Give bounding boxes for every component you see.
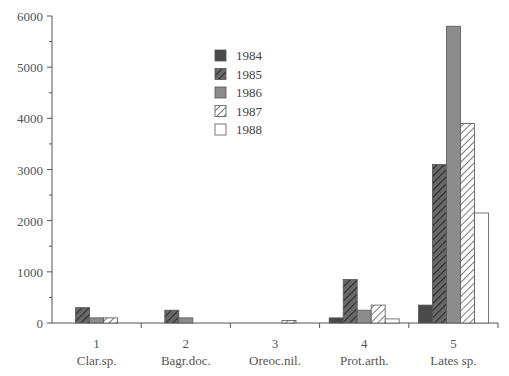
x-category-label: Bagr.doc. [161,353,211,368]
y-tick-label: 2000 [17,214,43,229]
y-tick-label: 0 [37,316,44,331]
bar-chart: 0100020003000400050006000 1Clar.sp.2Bagr… [0,0,509,376]
legend-swatch-1985 [215,69,226,80]
y-tick-label: 6000 [17,9,43,24]
legend-swatch-1986 [215,87,226,98]
bar-clarsp-1985 [76,308,90,323]
legend: 19841985198619871988 [215,48,263,137]
x-category-label: Lates sp. [430,353,476,368]
legend-label-1988: 1988 [236,122,262,137]
y-tick-label: 1000 [17,265,43,280]
x-category-label: Oreoc.nil. [249,353,301,368]
x-axis: 1Clar.sp.2Bagr.doc.3Oreoc.nil.4Prot.arth… [52,323,498,368]
y-axis: 0100020003000400050006000 [17,9,52,331]
x-category-label: Clar.sp. [77,353,117,368]
y-tick-label: 4000 [17,111,43,126]
bar-clarsp-1986 [90,318,104,323]
legend-label-1986: 1986 [236,85,263,100]
bars [76,26,489,323]
x-category-number: 3 [272,336,279,351]
x-category-number: 1 [93,336,100,351]
bar-latessp-1987 [460,123,474,323]
y-tick-label: 3000 [17,163,43,178]
bar-latessp-1984 [418,305,432,323]
bar-protarth-1986 [357,310,371,323]
legend-swatch-1988 [215,124,226,135]
x-category-number: 5 [450,336,457,351]
x-category-label: Prot.arth. [340,353,388,368]
bar-protarth-1987 [371,305,385,323]
bar-latessp-1985 [432,164,446,323]
bar-bagrdoc-1986 [179,318,193,323]
bar-clarsp-1987 [104,318,118,323]
legend-swatch-1984 [215,50,226,61]
bar-protarth-1988 [385,319,399,323]
legend-label-1984: 1984 [236,48,263,63]
x-category-number: 4 [361,336,368,351]
legend-swatch-1987 [215,106,226,117]
bar-protarth-1985 [343,280,357,323]
bar-latessp-1988 [474,213,488,323]
bar-bagrdoc-1985 [165,310,179,323]
y-tick-label: 5000 [17,60,43,75]
legend-label-1987: 1987 [236,104,263,119]
bar-latessp-1986 [446,26,460,323]
x-category-number: 2 [183,336,190,351]
legend-label-1985: 1985 [236,67,262,82]
bar-oreocnil-1987 [282,320,296,323]
bar-protarth-1984 [329,318,343,323]
